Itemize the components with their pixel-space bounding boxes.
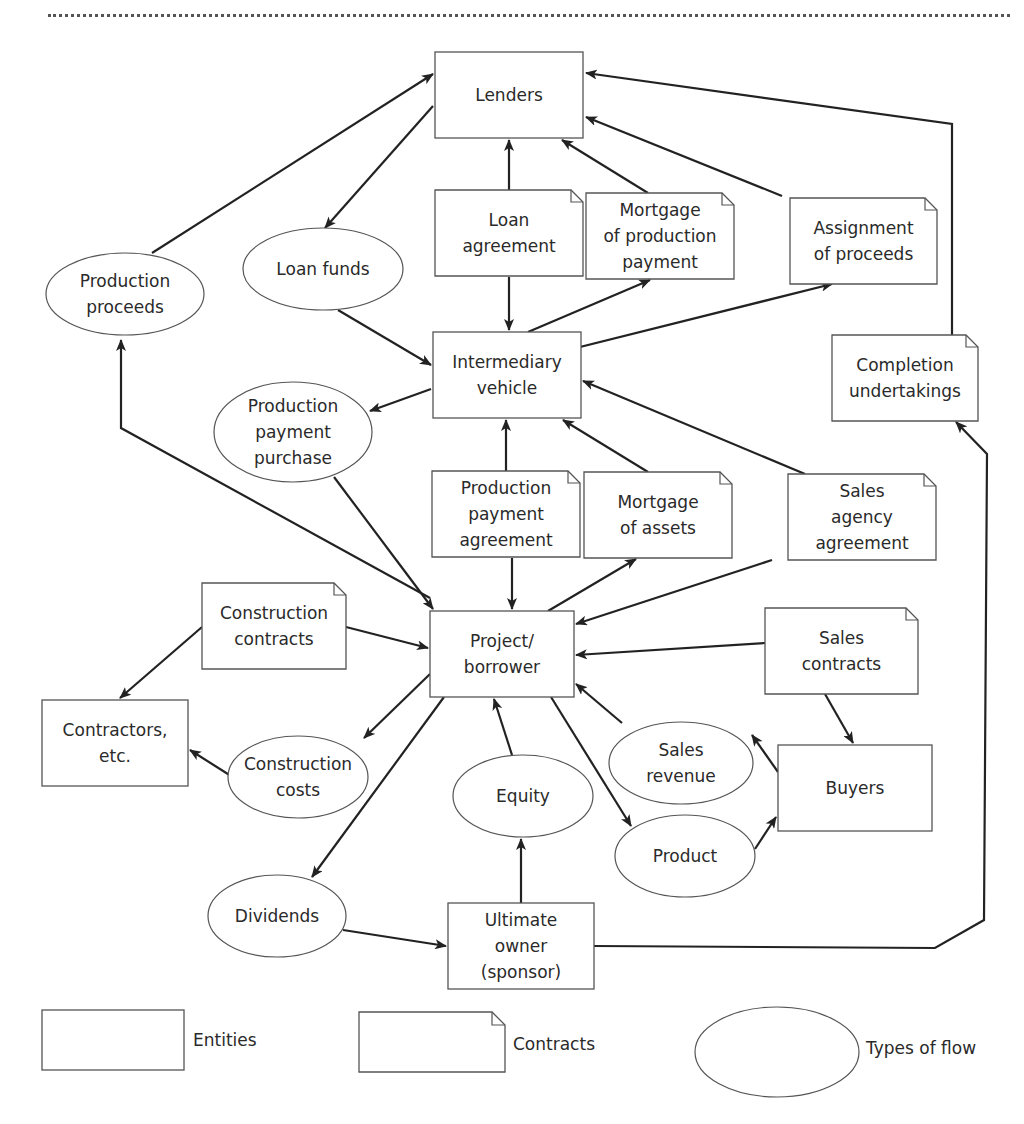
node-label: payment [255,422,331,442]
node-label: Buyers [826,778,885,798]
arrow-intermediary-vehicle-to-mortgage-production-payment [528,280,650,332]
arrow-mortgage-production-payment-to-lenders [562,140,648,193]
flow-sales-revenue: Salesrevenue [609,722,753,804]
contract-production-payment-agreement: Productionpaymentagreement [432,471,580,557]
document-shape [790,198,937,284]
arrow-intermediary-vehicle-to-assignment-of-proceeds [560,284,832,352]
document-shape [435,190,583,276]
arrow-lenders-to-loan-funds [325,106,433,228]
rect-shape [42,700,188,786]
node-label: agreement [462,236,556,256]
node-label: Loan funds [276,259,369,279]
node-layer: LendersLoanagreementMortgageof productio… [42,52,978,989]
document-shape [584,472,732,558]
contract-construction-contracts: Constructioncontracts [202,583,346,669]
node-label: costs [276,780,320,800]
node-label: Production [248,396,338,416]
node-label: agreement [815,533,909,553]
legend-label: Entities [193,1030,257,1050]
node-label: of proceeds [814,244,914,264]
ellipse-shape [228,736,368,818]
node-label: agency [831,507,893,527]
node-label: contracts [802,654,882,674]
node-label: etc. [99,746,131,766]
node-label: Sales [658,740,703,760]
node-label: Intermediary [452,352,562,372]
node-label: Project/ [470,631,534,651]
node-label: owner [495,936,548,956]
arrow-production-payment-purchase-to-project-borrower [334,477,433,609]
legend-label: Types of flow [865,1038,976,1058]
flow-construction-costs: Constructioncosts [228,736,368,818]
contract-sales-contracts: Salescontracts [765,608,918,694]
node-label: Product [653,846,718,866]
contract-shape-icon [359,1012,505,1072]
node-label: of assets [620,518,696,538]
entity-contractors: Contractors,etc. [42,700,188,786]
node-label: vehicle [477,378,538,398]
document-shape [765,608,918,694]
node-label: Mortgage [617,492,698,512]
node-label: Mortgage [619,200,700,220]
node-label: Construction [220,603,328,623]
node-label: of production [603,226,716,246]
node-label: Completion [856,355,953,375]
flow-dividends: Dividends [208,875,346,957]
document-shape [202,583,346,669]
entity-shape-icon [42,1010,184,1070]
entity-project-borrower: Project/borrower [430,611,574,697]
legend-item-entities: Entities [42,1010,257,1070]
contract-completion-undertakings: Completionundertakings [832,335,978,421]
document-shape [832,335,978,421]
project-finance-diagram: LendersLoanagreementMortgageof productio… [0,0,1024,1124]
node-label: agreement [459,530,553,550]
arrow-sales-contracts-to-buyers [825,694,853,743]
node-label: Loan [489,210,530,230]
node-label: Assignment [813,218,913,238]
rect-shape [430,611,574,697]
flow-production-proceeds: Productionproceeds [46,253,204,335]
flow-production-payment-purchase: Productionpaymentpurchase [214,382,372,482]
contract-mortgage-production-payment: Mortgageof productionpayment [586,193,734,279]
arrow-mortgage-of-assets-to-intermediary-vehicle [563,420,648,472]
node-label: revenue [646,766,716,786]
arrow-construction-contracts-to-contractors [120,627,202,698]
contract-mortgage-of-assets: Mortgageof assets [584,472,732,558]
arrow-production-proceeds-to-lenders [152,74,433,253]
node-label: Dividends [235,906,319,926]
arrow-loan-funds-to-intermediary-vehicle [338,310,431,365]
node-label: Ultimate [485,910,558,930]
arrow-equity-to-project-borrower [494,699,512,755]
entity-ultimate-owner: Ultimateowner(sponsor) [448,903,594,989]
node-label: Production [80,271,170,291]
arrow-sales-contracts-to-project-borrower [576,643,765,655]
node-label: borrower [464,657,540,677]
rect-shape [433,332,581,418]
flow-product: Product [615,815,755,897]
node-label: undertakings [849,381,961,401]
legend-item-contracts: Contracts [359,1012,595,1072]
flow-loan-funds: Loan funds [243,228,403,310]
node-label: payment [468,504,544,524]
arrow-assignment-of-proceeds-to-lenders [586,117,782,196]
entity-buyers: Buyers [778,745,932,831]
arrow-dividends-to-ultimate-owner [343,930,446,946]
arrow-sales-agency-agreement-to-project-borrower [576,560,772,624]
flow-equity: Equity [453,755,593,837]
arrow-intermediary-vehicle-to-production-payment-purchase [370,389,431,411]
arrow-construction-costs-to-contractors [190,750,231,776]
node-label: Lenders [475,85,543,105]
node-label: Equity [496,786,550,806]
arrow-sales-revenue-to-project-borrower [576,684,622,723]
node-label: payment [622,252,698,272]
arrow-construction-contracts-to-project-borrower [346,627,428,648]
arrow-project-borrower-to-mortgage-of-assets [548,559,636,611]
arrow-sales-agency-agreement-to-intermediary-vehicle [583,381,805,474]
legend-item-flows: Types of flow [695,1007,976,1097]
node-label: purchase [254,448,332,468]
flow-shape-icon [695,1007,859,1097]
contract-assignment-of-proceeds: Assignmentof proceeds [790,198,937,284]
node-label: Contractors, [63,720,168,740]
node-label: contracts [234,629,314,649]
node-label: Production [461,478,551,498]
